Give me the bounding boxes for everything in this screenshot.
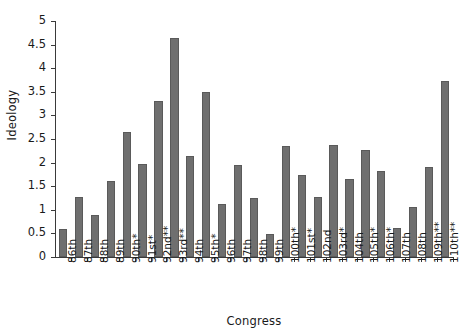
- x-axis-tick-label: 92nd**: [162, 226, 173, 263]
- x-axis-tick-label: 106th*: [385, 227, 396, 263]
- x-axis-tick-label: 99th: [274, 239, 285, 263]
- x-axis-tick-label: 95th*: [210, 234, 221, 263]
- x-axis-tick-label: 96th: [226, 239, 237, 263]
- x-axis-tick-label: 91st*: [147, 235, 158, 263]
- x-axis-tick-label: 110th**: [449, 222, 460, 263]
- x-axis-tick-label: 109th**: [433, 222, 444, 263]
- y-axis-tick-labels: 00.511.522.533.544.55: [0, 0, 46, 336]
- x-axis-title: Congress: [55, 314, 453, 328]
- x-axis-tick-label: 100th*: [290, 227, 301, 263]
- x-axis-tick-label: 93rd**: [178, 228, 189, 263]
- x-axis-tick-label: 88th: [99, 239, 110, 263]
- bar: [170, 38, 178, 257]
- y-axis-tick-label: 1.5: [2, 180, 46, 192]
- x-axis-tick-label: 105th*: [369, 227, 380, 263]
- x-axis-tick-label: 90th*: [131, 234, 142, 263]
- plot-area: [55, 21, 453, 257]
- y-axis-tick-label: 4: [2, 62, 46, 74]
- x-axis-tick-label: 108th: [417, 232, 428, 263]
- y-axis-tick-label: 2: [2, 157, 46, 169]
- y-axis-tick-label: 0.5: [2, 227, 46, 239]
- y-axis-tick-label: 2.5: [2, 133, 46, 145]
- x-axis-tick-label: 98th: [258, 239, 269, 263]
- x-axis-tick-label: 86th: [67, 239, 78, 263]
- x-axis-tick-label: 103rd*: [338, 227, 349, 263]
- y-axis-tick-label: 5: [2, 15, 46, 27]
- bar: [202, 92, 210, 257]
- x-axis-tick-label: 87th: [83, 239, 94, 263]
- x-axis-tick-label: 107th: [401, 232, 412, 263]
- y-axis-tick-label: 0: [2, 251, 46, 263]
- x-axis-tick-labels: 86th87th88th89th90th*91st*92nd**93rd**94…: [55, 263, 457, 319]
- y-axis-tick-label: 4.5: [2, 39, 46, 51]
- x-axis-tick-label: 104th: [354, 232, 365, 263]
- bar-series: [55, 21, 453, 257]
- x-axis-tick-label: 97th: [242, 239, 253, 263]
- x-axis-tick-label: 94th: [194, 239, 205, 263]
- x-axis-tick-label: 89th: [115, 239, 126, 263]
- x-axis-tick-label: 101st*: [306, 228, 317, 263]
- y-axis-tick-label: 3: [2, 109, 46, 121]
- y-axis-tick-label: 1: [2, 204, 46, 216]
- y-axis-tick-label: 3.5: [2, 86, 46, 98]
- x-axis-tick-label: 102nd: [322, 230, 333, 263]
- y-axis-tick-mark: [51, 257, 55, 258]
